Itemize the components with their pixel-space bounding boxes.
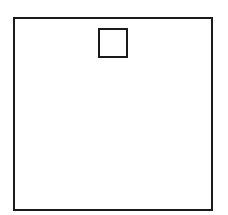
- inner-square: [98, 28, 128, 58]
